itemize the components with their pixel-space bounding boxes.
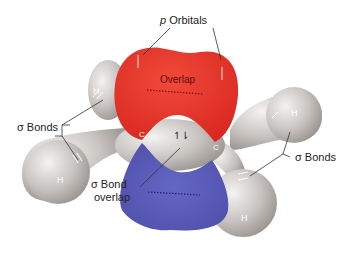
hydrogen-bottom-right-label: H	[241, 213, 248, 223]
overlap-label: Overlap	[160, 74, 195, 86]
sigma-bond-overlap-label-line1: σ Bond	[91, 178, 127, 190]
p-orbitals-label: p Orbitals	[160, 14, 207, 26]
hydrogen-top-left-label: H	[93, 86, 100, 96]
carbon-right-label: C	[213, 143, 219, 152]
sigma-bonds-right-label: σ Bonds	[295, 151, 336, 163]
sigma-bond-overlap-label-line2: overlap	[94, 191, 130, 203]
hydrogen-top-right-label: H	[291, 108, 298, 118]
electron-pair-arrows: ↿⇂	[173, 130, 189, 142]
hydrogen-top-right-atom	[230, 87, 322, 150]
sigma-bonds-left-label: σ Bonds	[17, 121, 58, 133]
hydrogen-bottom-left-label: H	[57, 175, 64, 185]
carbon-left-label: C	[139, 130, 145, 139]
